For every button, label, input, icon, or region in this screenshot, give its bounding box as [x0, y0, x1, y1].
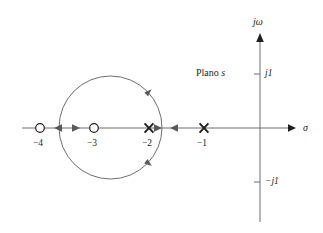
real-tick-label-minus2: −2 [142, 139, 152, 149]
zero-marker-minus3 [90, 124, 99, 133]
root-locus-plot [0, 0, 323, 233]
plane-label: Plano s [196, 68, 225, 78]
plane-label-variable: s [221, 67, 225, 78]
real-tick-label-minus1: −1 [197, 139, 207, 149]
arrow-right-from-zero3 [72, 124, 80, 132]
arrow-right-from-pole2 [154, 124, 162, 132]
imag-tick-label-minus-j1: −j1 [265, 177, 279, 187]
imag-tick-label-j1: j1 [265, 69, 272, 79]
arrow-left-from-pole1 [170, 124, 178, 132]
sigma-axis-label: σ [303, 123, 308, 133]
plane-label-text: Plano [196, 67, 219, 78]
real-tick-label-minus4: −4 [33, 139, 43, 149]
real-tick-label-minus3: −3 [87, 139, 97, 149]
zero-marker-minus4 [36, 124, 45, 133]
root-locus-figure: −4 −3 −2 −1 j1 −j1 σ jω Plano s [0, 0, 323, 233]
j-omega-axis-label: jω [253, 17, 263, 27]
arrow-left-toward-zero4 [54, 124, 62, 132]
